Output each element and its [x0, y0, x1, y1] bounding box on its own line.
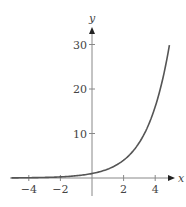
y-axis-label: y [88, 12, 96, 25]
axes [10, 27, 175, 196]
x-tick-label: −4 [21, 183, 37, 196]
x-axis-label: x [178, 172, 185, 185]
x-tick-label: 4 [152, 183, 159, 196]
y-tick-label: 30 [73, 39, 87, 52]
exponential-curve [11, 45, 169, 178]
x-axis-arrow-icon [168, 175, 175, 181]
x-tick-label: −2 [52, 183, 68, 196]
y-axis-arrow-icon [89, 27, 95, 34]
x-tick-label: 2 [120, 183, 127, 196]
ticks: −4−224102030 [21, 39, 159, 197]
y-tick-label: 20 [73, 83, 87, 96]
y-tick-label: 10 [73, 128, 87, 141]
exponential-chart: −4−224102030 x y [0, 0, 186, 207]
